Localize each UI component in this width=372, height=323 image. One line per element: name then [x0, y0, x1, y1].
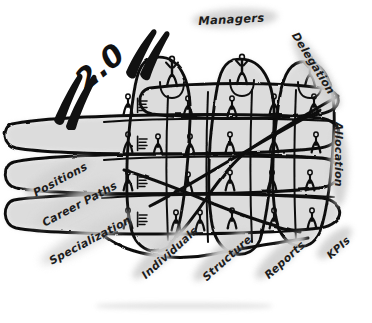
quote-open-icon	[126, 29, 170, 80]
bottom-smudge	[96, 303, 272, 309]
headline-group: 2.0	[52, 20, 172, 130]
highlight-allocation	[330, 128, 348, 206]
